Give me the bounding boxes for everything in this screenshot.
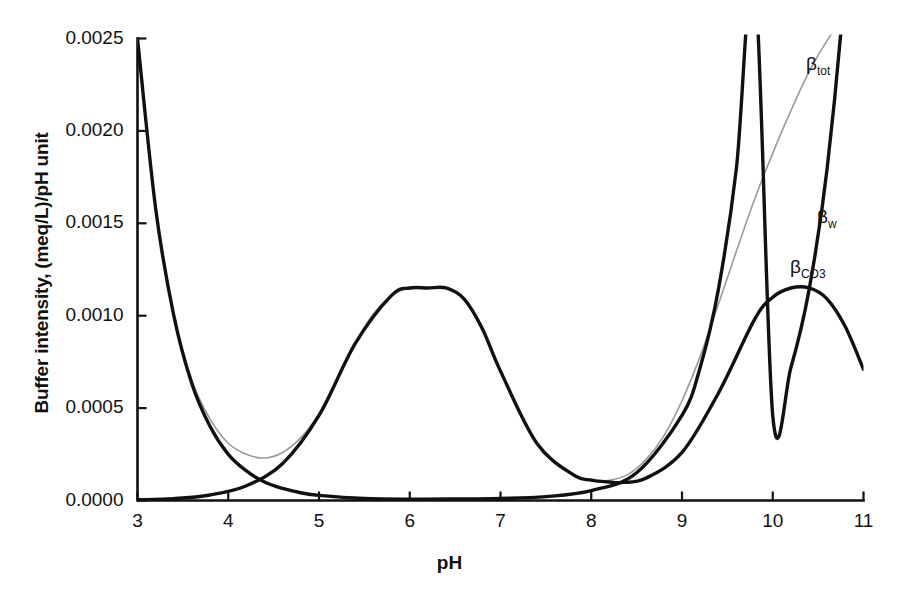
y-tick-label: 0.0015: [14, 211, 124, 233]
x-tick-label: 11: [844, 510, 884, 532]
beta-w-label: βw: [817, 206, 837, 231]
plot-canvas: [0, 0, 899, 592]
x-tick-label: 5: [299, 510, 339, 532]
curve-beta_tot: [138, 9, 855, 481]
x-tick-label: 9: [662, 510, 702, 532]
data-curves: [138, 0, 864, 500]
axis-lines: [138, 39, 864, 501]
x-tick-label: 6: [390, 510, 430, 532]
y-tick-label: 0.0025: [14, 27, 124, 49]
curve-beta_CO3: [138, 287, 864, 500]
x-tick-label: 7: [481, 510, 521, 532]
y-tick-label: 0.0020: [14, 119, 124, 141]
y-tick-label: 0.0010: [14, 304, 124, 326]
y-tick-label: 0.0005: [14, 396, 124, 418]
x-tick-label: 8: [571, 510, 611, 532]
beta-co3-label: βCO3: [790, 256, 826, 281]
x-tick-label: 3: [118, 510, 158, 532]
x-tick-label: 4: [208, 510, 248, 532]
y-tick-label: 0.0000: [14, 489, 124, 511]
x-tick-label: 10: [753, 510, 793, 532]
beta-tot-label: βtot: [806, 53, 830, 78]
buffer-intensity-chart: Buffer intensity, (meq/L)/pH unit pH 0.0…: [0, 0, 899, 592]
axis-ticks: [138, 39, 864, 501]
curve-beta_w: [138, 0, 864, 499]
